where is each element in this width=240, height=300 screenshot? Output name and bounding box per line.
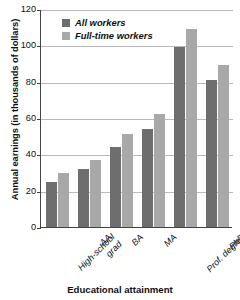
bar <box>90 160 101 227</box>
plot-area <box>40 10 232 228</box>
bar <box>110 147 121 227</box>
y-axis-tick-label: 80 <box>8 77 36 87</box>
legend: All workers Full-time workers <box>62 16 153 42</box>
bar-group <box>206 9 229 227</box>
legend-item-full-time-workers: Full-time workers <box>62 29 153 42</box>
y-axis-tick-label: 20 <box>8 186 36 196</box>
x-axis-tick-label: BA <box>130 232 146 248</box>
y-axis-tick-label: 100 <box>8 40 36 50</box>
y-axis-tick-mark <box>37 228 41 229</box>
bar <box>186 29 197 227</box>
x-axis-tick-label: MA <box>162 232 179 249</box>
y-axis-tick-label: 60 <box>8 113 36 123</box>
bar <box>46 182 57 227</box>
legend-label: Full-time workers <box>75 29 153 42</box>
legend-item-all-workers: All workers <box>62 16 153 29</box>
bar <box>206 80 217 227</box>
x-axis-title: Educational attainment <box>0 284 240 295</box>
bar <box>218 65 229 227</box>
bar <box>78 169 89 227</box>
legend-swatch-icon <box>62 19 70 27</box>
y-axis-tick-label: 40 <box>8 149 36 159</box>
bar-group <box>174 9 197 227</box>
legend-swatch-icon <box>62 32 70 40</box>
bar-chart: Annual earnings (in thousands of dollars… <box>0 0 240 300</box>
legend-label: All workers <box>75 16 126 29</box>
y-axis-tick-label: 0 <box>8 222 36 232</box>
y-axis-tick-label: 120 <box>8 4 36 14</box>
bar <box>142 129 153 227</box>
bar <box>174 47 185 227</box>
bar <box>154 114 165 227</box>
bar <box>122 134 133 227</box>
bar <box>58 173 69 228</box>
